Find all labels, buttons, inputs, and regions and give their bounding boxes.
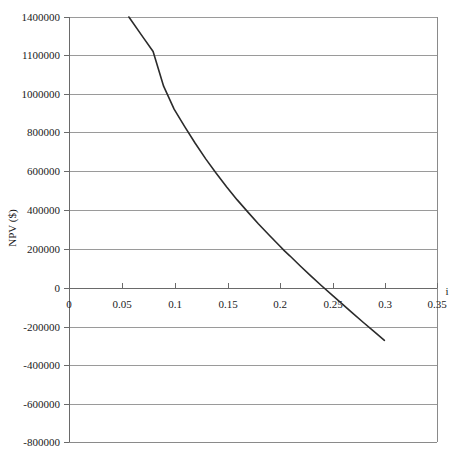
- x-tick-label-0-15: 0.15: [218, 298, 238, 310]
- y-tick-label-minus200000: -200000: [23, 321, 60, 333]
- chart-container: 1400000 1100000 1000000 800000 600000 40…: [0, 0, 462, 464]
- x-tick-label-0-2: 0.2: [273, 298, 287, 310]
- y-axis-title: NPV ($): [6, 209, 19, 247]
- y-tick-label-minus400000: -400000: [23, 359, 60, 371]
- x-tick-label-0-05: 0.05: [112, 298, 132, 310]
- y-tick-label-1400000: 1400000: [22, 11, 61, 23]
- y-axis-ticks: [64, 17, 69, 442]
- npv-curve: [129, 17, 385, 340]
- x-axis-ticks: [122, 283, 437, 288]
- x-tick-label-0-3: 0.3: [378, 298, 392, 310]
- x-tick-label-0-1: 0.1: [168, 298, 182, 310]
- horizontal-gridlines: [69, 17, 437, 442]
- y-tick-label-200000: 200000: [27, 243, 61, 255]
- y-tick-label-600000: 600000: [27, 165, 61, 177]
- y-tick-label-0: 0: [55, 282, 61, 294]
- npv-vs-interest-rate-chart: 1400000 1100000 1000000 800000 600000 40…: [0, 0, 462, 464]
- x-axis-tick-labels: 0 0.05 0.1 0.15 0.2 0.25 0.3 0.35: [66, 298, 447, 310]
- plot-frame: [69, 17, 437, 442]
- x-tick-label-0-25: 0.25: [323, 298, 343, 310]
- y-tick-label-400000: 400000: [27, 204, 61, 216]
- y-tick-label-1100000: 1100000: [22, 49, 61, 61]
- x-axis-title: i: [445, 285, 448, 297]
- y-tick-label-1000000: 1000000: [22, 88, 61, 100]
- y-tick-label-minus800000: -800000: [23, 436, 60, 448]
- y-tick-label-800000: 800000: [27, 126, 61, 138]
- x-tick-label-0: 0: [66, 298, 72, 310]
- x-tick-label-0-35: 0.35: [427, 298, 447, 310]
- y-axis-tick-labels: 1400000 1100000 1000000 800000 600000 40…: [22, 11, 61, 448]
- y-tick-label-minus600000: -600000: [23, 398, 60, 410]
